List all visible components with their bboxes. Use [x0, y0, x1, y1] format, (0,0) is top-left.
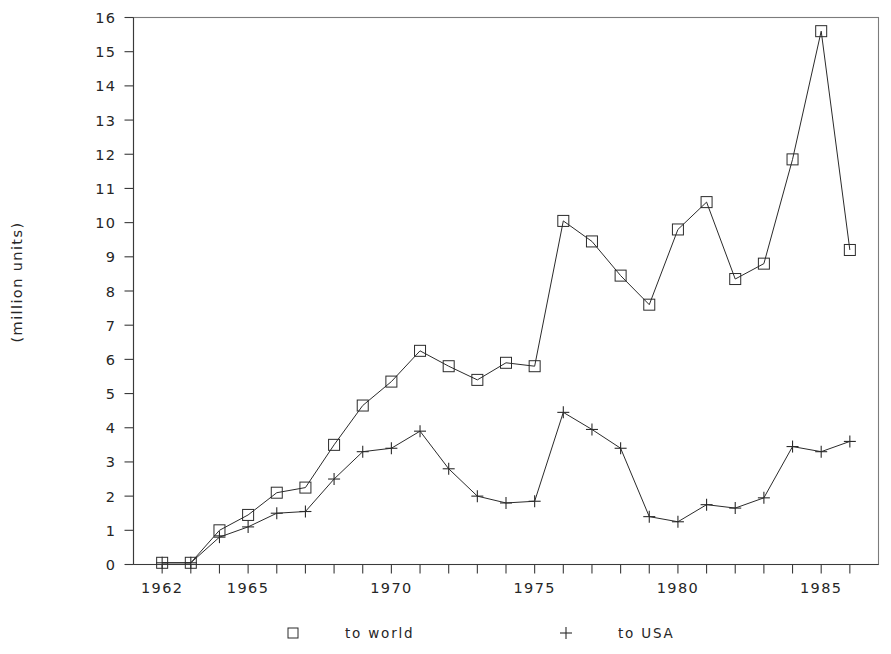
data-point	[500, 497, 512, 509]
series-to-usa	[156, 406, 856, 568]
line-chart: 012345678910111213141516 196219651970197…	[0, 0, 891, 654]
y-axis-title: (million units)	[9, 222, 25, 343]
y-tick-label-14: 14	[95, 78, 116, 94]
plot-frame	[134, 18, 879, 565]
data-point	[529, 495, 541, 507]
y-tick-label-5: 5	[106, 386, 117, 402]
data-point	[615, 442, 627, 454]
y-tick-label-10: 10	[95, 215, 116, 231]
legend-entry-to-usa: to USA	[560, 625, 675, 641]
data-point	[271, 507, 283, 519]
series-line	[162, 31, 850, 563]
data-point	[701, 499, 713, 511]
y-tick-label-9: 9	[106, 249, 117, 265]
chart-legend: to worldto USA	[288, 625, 675, 641]
data-series-layer	[156, 26, 856, 569]
x-tick-label-1970: 1970	[370, 580, 413, 596]
legend-entry-to-world: to world	[288, 625, 414, 641]
legend-label: to USA	[618, 625, 675, 641]
x-tick-label-1980: 1980	[657, 580, 700, 596]
data-point	[758, 492, 770, 504]
data-point	[729, 502, 741, 514]
series-to-world	[157, 26, 856, 569]
chart-figure: 012345678910111213141516 196219651970197…	[0, 0, 891, 654]
series-line	[162, 412, 850, 562]
data-point	[242, 521, 254, 533]
data-point	[385, 442, 397, 454]
y-tick-label-16: 16	[95, 10, 116, 26]
data-point	[643, 511, 655, 523]
data-point	[844, 435, 856, 447]
data-point	[156, 557, 168, 569]
plus-marker	[560, 627, 572, 639]
y-tick-label-3: 3	[106, 454, 117, 470]
x-tick-label-1965: 1965	[227, 580, 270, 596]
data-point	[414, 425, 426, 437]
x-tick-label-1962: 1962	[141, 580, 184, 596]
legend-label: to world	[345, 625, 414, 641]
y-tick-label-13: 13	[95, 113, 116, 129]
y-tick-label-11: 11	[95, 181, 116, 197]
data-point	[815, 446, 827, 458]
data-point	[787, 441, 799, 453]
x-tick-label-1975: 1975	[513, 580, 556, 596]
y-tick-label-8: 8	[106, 284, 117, 300]
y-tick-label-2: 2	[106, 489, 117, 505]
data-point	[586, 423, 598, 435]
y-tick-label-0: 0	[106, 557, 117, 573]
y-tick-label-12: 12	[95, 147, 116, 163]
x-axis-ticks	[162, 565, 850, 574]
data-point	[672, 516, 684, 528]
y-tick-label-7: 7	[106, 318, 117, 334]
square-marker	[288, 628, 298, 638]
y-tick-label-15: 15	[95, 44, 116, 60]
y-tick-label-6: 6	[106, 352, 117, 368]
data-point	[557, 406, 569, 418]
x-tick-label-1985: 1985	[800, 580, 843, 596]
y-axis-ticks: 012345678910111213141516	[95, 10, 133, 573]
y-tick-label-4: 4	[106, 420, 117, 436]
y-tick-label-1: 1	[106, 523, 117, 539]
x-axis-tick-labels: 196219651970197519801985	[141, 580, 843, 596]
